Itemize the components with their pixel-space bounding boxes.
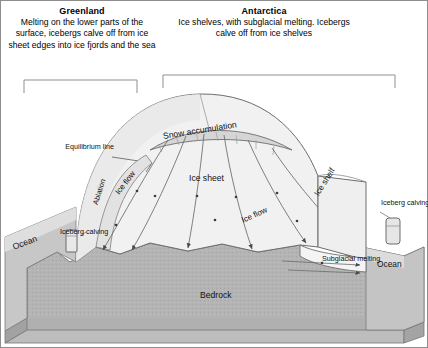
header-antarctica: Antarctica Ice shelves, with subglacial … — [176, 6, 352, 40]
bracket-greenland — [24, 80, 137, 93]
iceberg-right — [386, 218, 400, 244]
header-greenland-title: Greenland — [6, 6, 158, 17]
header-antarctica-body: Ice shelves, with subglacial melting. Ic… — [176, 17, 352, 39]
label-ocean-right: Ocean — [377, 259, 402, 269]
header-antarctica-title: Antarctica — [176, 6, 352, 17]
header-greenland: Greenland Melting on the lower parts of … — [6, 6, 158, 51]
header-greenland-body: Melting on the lower parts of the surfac… — [6, 17, 158, 51]
calving-leader-right — [380, 212, 390, 218]
label-bedrock: Bedrock — [200, 290, 232, 300]
diagram-canvas: Greenland Melting on the lower parts of … — [0, 0, 428, 348]
bracket-antarctica — [163, 75, 395, 88]
label-iceberg-calving-left: Iceberg calving — [60, 228, 100, 236]
label-equilibrium-line: Equilibrium line — [52, 143, 114, 152]
label-iceberg-calving-right: Iceberg calving — [381, 199, 425, 207]
label-ice-sheet: Ice sheet — [189, 173, 224, 183]
label-subglacial-melting: Subglacial melting — [322, 255, 370, 263]
